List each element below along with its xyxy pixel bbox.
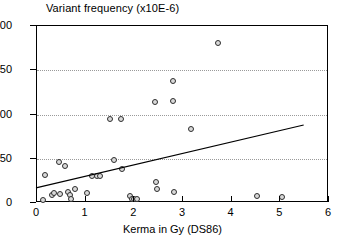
x-tick-label: 5 <box>269 206 289 218</box>
y-tick-label: 100 <box>0 108 12 120</box>
y-tick-mark <box>30 69 36 70</box>
x-tick-label: 6 <box>318 206 338 218</box>
x-tick-label: 3 <box>172 206 192 218</box>
x-tick-mark <box>36 196 37 202</box>
x-tick-label: 4 <box>221 206 241 218</box>
y-tick-label: 150 <box>0 63 12 75</box>
x-tick-label: 1 <box>75 206 95 218</box>
y-tick-mark <box>30 202 36 203</box>
x-tick-mark <box>279 196 280 202</box>
x-tick-mark <box>231 196 232 202</box>
x-tick-mark <box>328 196 329 202</box>
x-tick-mark <box>133 196 134 202</box>
x-tick-mark <box>182 196 183 202</box>
x-axis-title: Kerma in Gy (DS86) <box>0 223 345 235</box>
y-tick-label: 50 <box>0 152 12 164</box>
scatter-chart: Variant frequency (x10E-6) Kerma in Gy (… <box>0 0 345 245</box>
x-tick-label: 0 <box>26 206 46 218</box>
y-tick-label: 200 <box>0 19 12 31</box>
x-tick-mark <box>85 196 86 202</box>
y-tick-mark <box>30 114 36 115</box>
y-tick-mark <box>30 25 36 26</box>
y-tick-mark <box>30 158 36 159</box>
y-tick-label: 0 <box>6 196 12 208</box>
x-tick-label: 2 <box>123 206 143 218</box>
